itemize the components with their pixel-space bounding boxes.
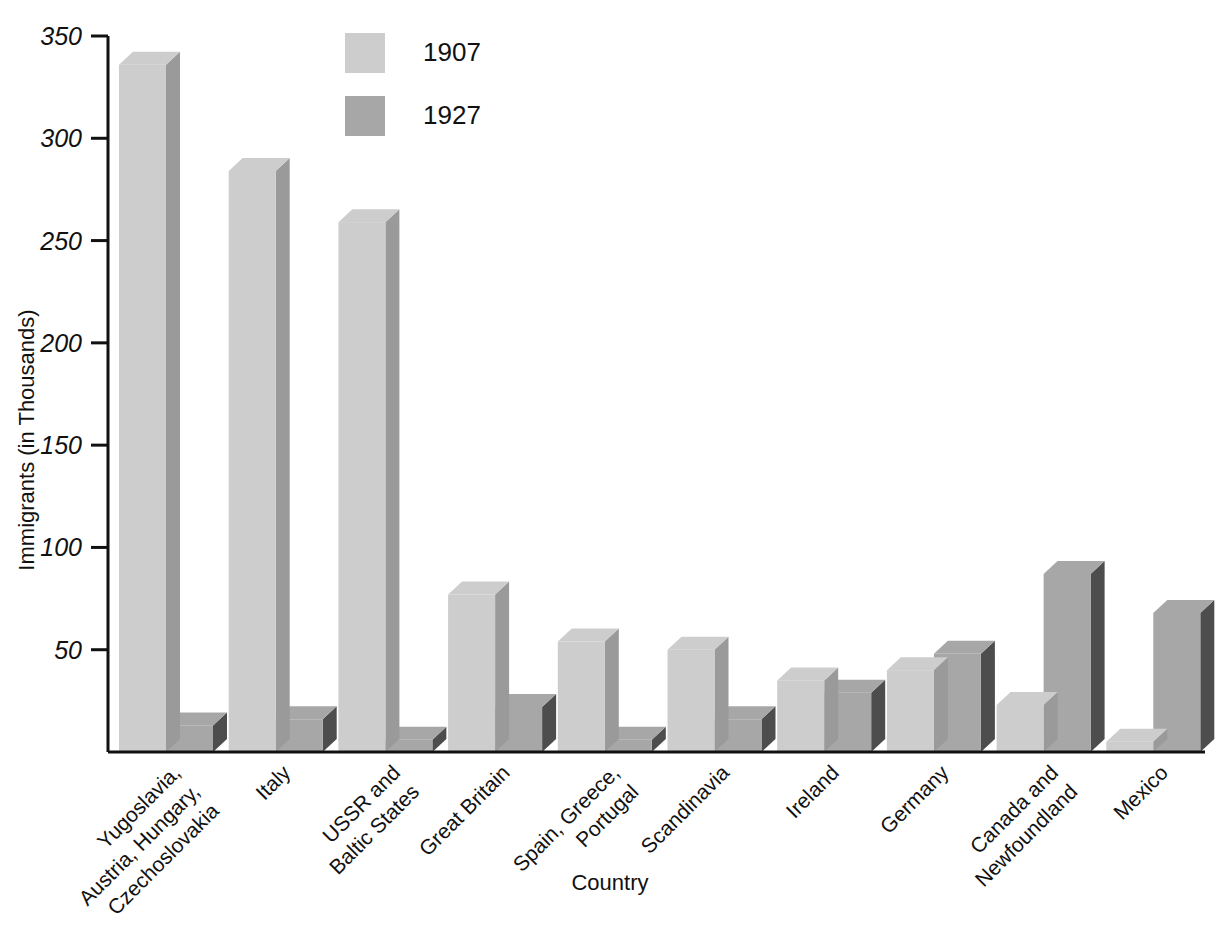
legend-label-1907: 1907	[423, 37, 481, 67]
bar-front-face	[448, 594, 495, 752]
bar-1907	[997, 692, 1058, 752]
bar-front-face	[887, 670, 934, 752]
y-tick-label: 100	[40, 533, 82, 561]
bar-front-face	[119, 65, 166, 752]
bar-1907	[448, 581, 509, 752]
y-tick-label: 150	[40, 431, 82, 459]
chart-canvas: 50100150200250300350 Immigrants (in Thou…	[0, 0, 1221, 928]
bar-front-face	[668, 650, 715, 752]
bar-side-face	[495, 581, 509, 752]
bar-side-face	[166, 52, 180, 752]
y-tick-label: 350	[40, 22, 82, 50]
x-axis-title: Country	[571, 870, 648, 895]
bar-front-face	[777, 680, 824, 752]
bar-front-face	[997, 705, 1044, 752]
bar-1907	[668, 637, 729, 752]
bar-front-face	[338, 222, 385, 752]
immigration-bar-chart: 50100150200250300350 Immigrants (in Thou…	[0, 0, 1221, 928]
y-tick-label: 250	[39, 227, 82, 255]
legend-swatch-1907	[345, 33, 385, 73]
bar-side-face	[1091, 561, 1105, 752]
legend-label-1927: 1927	[423, 100, 481, 130]
bar-1907	[229, 158, 290, 752]
bar-1907	[119, 52, 180, 752]
bar-side-face	[1200, 600, 1214, 752]
y-tick-label: 50	[54, 636, 82, 664]
bar-side-face	[824, 667, 838, 752]
y-axis-title: Immigrants (in Thousands)	[14, 309, 39, 570]
bar-1907	[558, 629, 619, 752]
bar-side-face	[605, 629, 619, 752]
bar-front-face	[1106, 742, 1153, 752]
legend-swatch-1927	[345, 96, 385, 136]
bar-side-face	[934, 657, 948, 752]
bar-side-face	[276, 158, 290, 752]
bar-side-face	[981, 641, 995, 752]
bar-1907	[777, 667, 838, 752]
y-tick-label: 200	[39, 329, 82, 357]
bar-front-face	[558, 642, 605, 752]
y-tick-label: 300	[40, 124, 82, 152]
bar-side-face	[715, 637, 729, 752]
bar-side-face	[385, 209, 399, 752]
bar-1907	[887, 657, 948, 752]
bar-front-face	[229, 171, 276, 752]
bar-1907	[338, 209, 399, 752]
